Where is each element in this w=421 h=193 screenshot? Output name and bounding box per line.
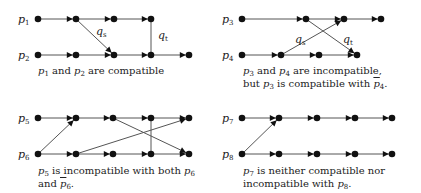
arrowhead-icon bbox=[142, 16, 148, 22]
arrowhead-icon bbox=[310, 52, 316, 58]
node bbox=[111, 16, 118, 23]
panel-3-caption: p5 is incompatible with both p6and p6. bbox=[38, 164, 195, 190]
node bbox=[276, 115, 283, 122]
node bbox=[354, 52, 361, 59]
panel-4-caption: p7 is neither compatible norincompatible… bbox=[243, 164, 385, 190]
node bbox=[239, 115, 246, 122]
arrowhead-icon bbox=[142, 151, 148, 157]
node bbox=[316, 52, 323, 59]
panel-4: p7p8 bbox=[222, 112, 395, 162]
caption-line: incompatible with p8. bbox=[243, 177, 385, 190]
caption-line: p7 is neither compatible nor bbox=[243, 164, 385, 177]
node bbox=[148, 16, 155, 23]
row-label: p1 bbox=[18, 13, 30, 27]
cross-edge bbox=[76, 118, 189, 154]
arrowhead-icon bbox=[272, 52, 278, 58]
panel-1: qsqtp1p2 bbox=[18, 13, 192, 63]
arrowhead-icon bbox=[105, 52, 111, 58]
caption-line: p1 and p2 are compatible bbox=[38, 64, 164, 77]
node bbox=[148, 115, 155, 122]
panel-3: p5p6 bbox=[18, 112, 192, 162]
arrowhead-icon bbox=[67, 115, 73, 121]
node bbox=[239, 151, 246, 158]
arrowhead-icon bbox=[180, 52, 186, 58]
row-label: p4 bbox=[222, 49, 234, 63]
arrowhead-icon bbox=[297, 16, 303, 22]
arrowhead-icon bbox=[383, 151, 389, 157]
node bbox=[186, 115, 193, 122]
arrowhead-icon bbox=[142, 52, 148, 58]
node bbox=[314, 115, 321, 122]
node bbox=[73, 16, 80, 23]
node bbox=[35, 151, 42, 158]
edge-label: qt bbox=[343, 33, 353, 47]
node bbox=[111, 52, 118, 59]
panel-2: qsqtp3p4 bbox=[222, 13, 384, 63]
node bbox=[73, 115, 80, 122]
row-label: p3 bbox=[222, 13, 234, 27]
node bbox=[239, 16, 246, 23]
arrowhead-icon bbox=[67, 52, 73, 58]
arrowhead-icon bbox=[346, 115, 352, 121]
node bbox=[35, 16, 42, 23]
node bbox=[276, 151, 283, 158]
row-label: p8 bbox=[222, 148, 234, 162]
arrowhead-icon bbox=[372, 16, 378, 22]
node bbox=[389, 115, 396, 122]
row-label: p7 bbox=[222, 112, 234, 126]
node bbox=[341, 16, 348, 23]
edge-label: qt bbox=[158, 29, 168, 43]
node bbox=[35, 52, 42, 59]
row-label: p2 bbox=[18, 49, 30, 63]
arrowhead-icon bbox=[308, 151, 314, 157]
node bbox=[148, 52, 155, 59]
node bbox=[110, 151, 117, 158]
node bbox=[35, 115, 42, 122]
arrowhead-icon bbox=[105, 16, 111, 22]
node bbox=[148, 151, 155, 158]
caption-line: p3 and p4 are incompatible, bbox=[243, 64, 387, 77]
arrowhead-icon bbox=[383, 115, 389, 121]
node bbox=[278, 52, 285, 59]
node bbox=[352, 115, 359, 122]
edge-label: qs bbox=[96, 25, 107, 39]
node bbox=[73, 52, 80, 59]
arrowhead-icon bbox=[67, 16, 73, 22]
caption-line: and p6. bbox=[38, 177, 195, 190]
arrowhead-icon bbox=[348, 47, 355, 53]
node bbox=[73, 151, 80, 158]
panel-1-caption: p1 and p2 are compatible bbox=[38, 64, 164, 77]
node bbox=[303, 16, 310, 23]
caption-line: but p3 is compatible with p4. bbox=[243, 77, 387, 90]
edge-label: qs bbox=[295, 33, 306, 47]
node bbox=[378, 16, 385, 23]
arrowhead-icon bbox=[104, 115, 110, 121]
cross-edge bbox=[281, 19, 344, 55]
row-label: p6 bbox=[18, 148, 30, 162]
caption-line: p5 is incompatible with both p6 bbox=[38, 164, 195, 177]
node bbox=[239, 52, 246, 59]
node bbox=[186, 151, 193, 158]
node bbox=[110, 115, 117, 122]
node bbox=[352, 151, 359, 158]
arrowhead-icon bbox=[270, 115, 276, 121]
panel-2-caption: p3 and p4 are incompatible,but p3 is com… bbox=[243, 64, 387, 90]
arrowhead-icon bbox=[270, 151, 276, 157]
node bbox=[186, 52, 193, 59]
row-label: p5 bbox=[18, 112, 30, 126]
node bbox=[389, 151, 396, 158]
node bbox=[314, 151, 321, 158]
arrowhead-icon bbox=[346, 151, 352, 157]
arrowhead-icon bbox=[308, 115, 314, 121]
arrowhead-icon bbox=[142, 115, 148, 121]
arrowhead-icon bbox=[67, 151, 73, 157]
arrowhead-icon bbox=[104, 151, 110, 157]
